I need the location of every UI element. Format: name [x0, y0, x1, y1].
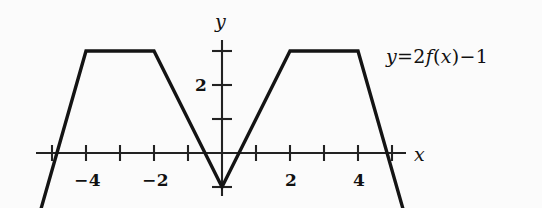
y-axis-name: y [215, 10, 226, 32]
equation-annotation: y=2f(x)−1 [386, 45, 488, 67]
equation-variable-x: x [441, 45, 452, 67]
equation-equals: = [397, 45, 413, 67]
x-tick-label-2: 2 [285, 170, 297, 190]
x-axis-name: x [414, 143, 425, 165]
equation-coefficient: 2 [413, 45, 425, 67]
equation-constant: 1 [476, 45, 488, 67]
x-tick-label--4: −4 [74, 170, 101, 190]
equation-paren-open: ( [433, 45, 441, 67]
equation-minus-sign: − [459, 45, 475, 67]
x-tick-label-4: 4 [353, 170, 365, 190]
equation-function-f: f [426, 45, 433, 67]
equation-lhs: y [386, 45, 397, 67]
y-tick-label-2: 2 [195, 75, 207, 95]
graph-figure: −4 −2 2 4 2 y x y=2f(x)−1 [0, 0, 542, 208]
x-tick-label--2: −2 [142, 170, 169, 190]
